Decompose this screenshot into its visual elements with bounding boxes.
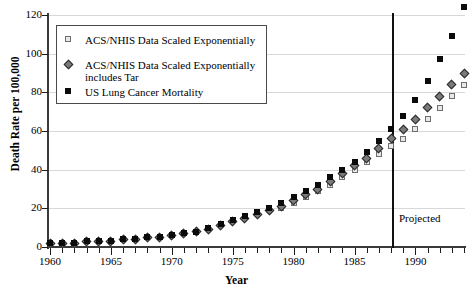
x-tick-1993 [452, 248, 453, 253]
x-tick-1968 [147, 248, 148, 253]
x-tick-1974 [221, 248, 222, 253]
x-tick-1963 [87, 248, 88, 253]
legend-item-label: ACS/NHIS Data Scaled Exponentially [85, 34, 255, 46]
x-tick-1971 [184, 248, 185, 253]
x-tick-1978 [269, 248, 270, 253]
x-tick-label-1970: 1970 [149, 255, 195, 267]
y-tick-label-40: 40 [2, 164, 42, 174]
data-point [193, 229, 199, 235]
data-point [96, 238, 102, 244]
data-point [84, 238, 90, 244]
x-tick-1970 [172, 248, 173, 255]
gridline-40 [48, 170, 465, 171]
x-tick-1972 [196, 248, 197, 253]
x-tick-1965 [111, 248, 112, 255]
data-point [400, 113, 406, 119]
x-tick-1961 [62, 248, 63, 253]
x-tick-1966 [123, 248, 124, 253]
data-point [352, 159, 358, 165]
data-point [449, 93, 455, 99]
filled-square-icon [65, 88, 71, 94]
data-point [425, 78, 431, 84]
data-point [144, 234, 150, 240]
y-tick-label-100: 100 [2, 48, 42, 58]
data-point [59, 240, 65, 246]
y-tick-80 [42, 92, 48, 93]
chart-legend: ACS/NHIS Data Scaled ExponentiallyACS/NH… [56, 25, 267, 104]
data-point [461, 4, 467, 10]
diamond-icon [64, 60, 74, 70]
x-tick-1977 [257, 248, 258, 253]
x-tick-1964 [99, 248, 100, 253]
data-point [388, 126, 394, 132]
x-tick-1984 [342, 248, 343, 253]
legend-item-label: US Lung Cancer Mortality [85, 86, 203, 98]
data-point [388, 143, 394, 149]
data-point [461, 82, 467, 88]
x-tick-1985 [355, 248, 356, 255]
data-point [437, 105, 443, 111]
y-tick-label-120: 120 [2, 9, 42, 19]
legend-item-label-line2: includes Tar [85, 71, 139, 83]
data-point [364, 149, 370, 155]
x-tick-1991 [428, 248, 429, 253]
data-point [315, 182, 321, 188]
y-tick-120 [42, 15, 48, 16]
data-point [120, 236, 126, 242]
x-tick-label-1975: 1975 [210, 255, 256, 267]
y-tick-20 [42, 208, 48, 209]
y-tick-label-80: 80 [2, 86, 42, 96]
y-tick-40 [42, 170, 48, 171]
data-point [303, 188, 309, 194]
x-tick-1960 [50, 248, 51, 255]
x-tick-1980 [294, 248, 295, 255]
data-point [157, 234, 163, 240]
y-tick-60 [42, 131, 48, 132]
data-point [437, 56, 443, 62]
legend-item-label: ACS/NHIS Data Scaled Exponentially [85, 59, 255, 71]
x-tick-1982 [318, 248, 319, 253]
data-point [278, 200, 284, 206]
data-point [449, 33, 455, 39]
x-tick-1967 [135, 248, 136, 253]
x-tick-1986 [367, 248, 368, 253]
data-point [169, 232, 175, 238]
x-tick-1988 [391, 248, 392, 253]
open-square-icon [65, 36, 71, 42]
x-tick-label-1980: 1980 [271, 255, 317, 267]
data-point [412, 126, 418, 132]
y-tick-label-0: 0 [2, 241, 42, 251]
data-point [47, 240, 53, 246]
x-tick-1987 [379, 248, 380, 253]
x-tick-1973 [208, 248, 209, 253]
data-point [205, 225, 211, 231]
y-axis-title: Death Rate per 100,000 [9, 39, 21, 189]
y-axis-tick-labels: 020406080100120 [0, 0, 42, 290]
y-tick-100 [42, 54, 48, 55]
data-point [254, 209, 260, 215]
chart-figure: 020406080100120 Death Rate per 100,000 Y… [0, 0, 473, 290]
data-point [108, 238, 114, 244]
x-tick-1992 [440, 248, 441, 253]
y-tick-0 [42, 247, 48, 248]
x-tick-1975 [233, 248, 234, 255]
x-tick-1979 [281, 248, 282, 253]
y-tick-label-20: 20 [2, 202, 42, 212]
data-point [230, 217, 236, 223]
x-axis-title: Year [0, 274, 473, 286]
x-tick-1976 [245, 248, 246, 253]
data-point [376, 138, 382, 144]
x-tick-label-1960: 1960 [27, 255, 73, 267]
x-tick-1983 [330, 248, 331, 253]
x-tick-1962 [74, 248, 75, 253]
y-tick-label-60: 60 [2, 125, 42, 135]
data-point [71, 240, 77, 246]
data-point [327, 174, 333, 180]
data-point [218, 221, 224, 227]
data-point [425, 116, 431, 122]
data-point [400, 136, 406, 142]
data-point [266, 205, 272, 211]
x-tick-1989 [403, 248, 404, 253]
data-point [181, 230, 187, 236]
x-tick-1990 [415, 248, 416, 255]
